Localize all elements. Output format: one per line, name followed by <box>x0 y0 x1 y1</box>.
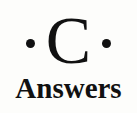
right-dot-icon <box>102 39 111 48</box>
logo-wordmark: Answers <box>0 72 137 104</box>
logo-letter: C <box>0 6 137 74</box>
c-answers-logo: C Answers <box>0 0 137 113</box>
